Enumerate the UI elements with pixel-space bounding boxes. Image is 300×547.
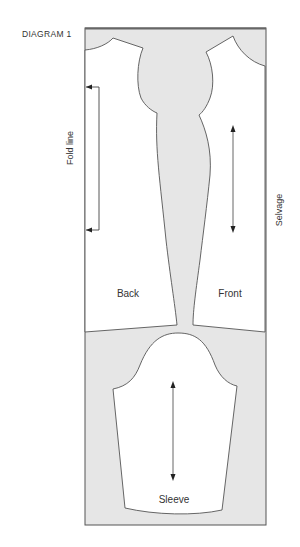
fold-line-label: Fold line	[65, 131, 75, 165]
front-label: Front	[218, 288, 242, 299]
sleeve-label: Sleeve	[159, 494, 190, 505]
selvage-label: Selvage	[274, 194, 284, 227]
back-label: Back	[117, 288, 140, 299]
pattern-layout-diagram: DIAGRAM 1 Fold line Selvage Back Front S…	[0, 0, 300, 547]
diagram-title: DIAGRAM 1	[22, 29, 71, 39]
